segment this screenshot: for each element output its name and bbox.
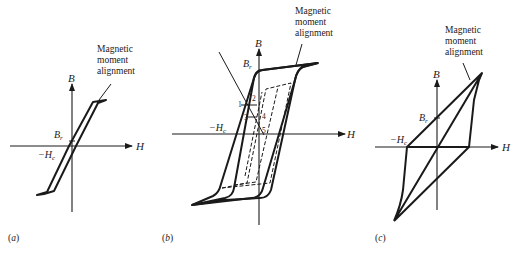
hc-label-c: −Hc [390,134,408,147]
caption-b: (b) [162,233,173,244]
b-axis-label-c: B [433,68,440,80]
caption-c: (c) [375,233,386,244]
panel-c: B H Br −Hc Magnetic moment alignment (c) [375,25,511,244]
hc-label-a: −Hc [38,149,56,162]
hysteresis-figure: B H Br −Hc Magnetic moment alignment (a)… [0,0,520,258]
point-2: 2 [252,94,256,103]
point-3: 3 [244,113,248,122]
annotation-leader-b [296,44,302,65]
panel-b: B H Br −Hc 1 2 3 4 5 Magnetic moment ali… [162,6,356,244]
hysteresis-loop-c [394,73,482,221]
b-axis-label-a: B [68,72,75,84]
b-axis-label-b: B [255,37,262,49]
caption-a: (a) [8,233,19,244]
br-label-b: Br [243,58,252,71]
br-label-a: Br [54,129,63,142]
h-axis-label-b: H [346,128,356,140]
annotation-b: Magnetic moment alignment [295,6,333,38]
point-1: 1 [238,100,242,109]
point-5: 5 [262,126,266,135]
annotation-leader-c [463,63,470,80]
hc-label-b: −Hc [209,122,227,135]
point-4: 4 [262,112,266,121]
h-axis-label-a: H [135,140,145,152]
annotation-a: Magnetic moment alignment [97,44,135,76]
annotation-leader-a [99,84,111,100]
h-axis-label-c: H [501,141,511,153]
br-label-c: Br [419,112,428,125]
load-line-b [219,52,264,135]
annotation-c: Magnetic moment alignment [445,25,483,57]
panel-a: B H Br −Hc Magnetic moment alignment (a) [8,44,145,244]
minor-loop-b [222,83,291,188]
